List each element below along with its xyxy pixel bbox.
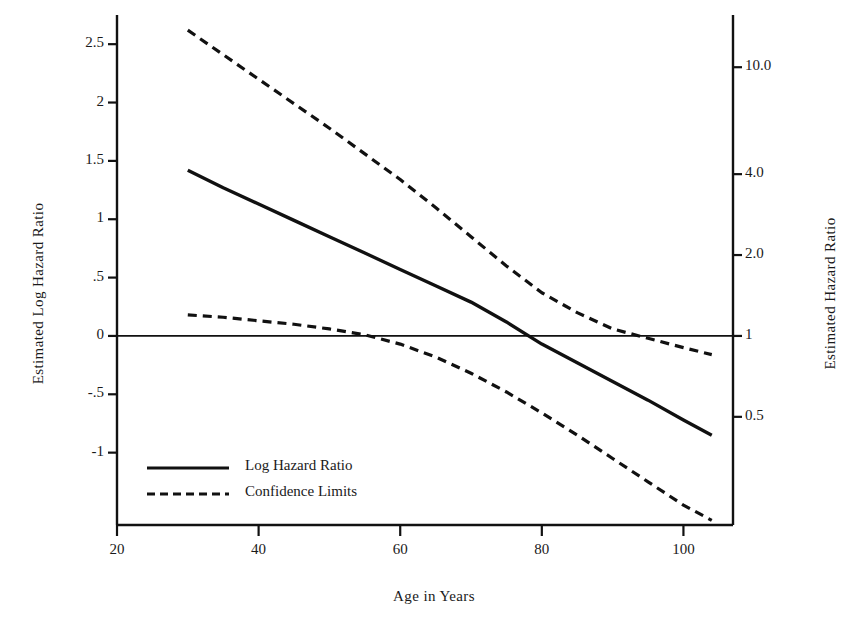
x-tick-label-2: 60 (370, 541, 430, 558)
x-tick-label-0: 20 (87, 541, 147, 558)
y-tick-label-right-4: 0.5 (745, 407, 805, 424)
data-series-group (188, 30, 712, 520)
y-tick-label-left-0: 2.5 (58, 34, 104, 51)
legend-sample-lines (147, 468, 229, 494)
y-tick-label-left-4: .5 (58, 268, 104, 285)
x-tick-label-4: 100 (653, 541, 713, 558)
y-tick-label-left-7: -1 (58, 443, 104, 460)
plot-canvas (0, 0, 868, 629)
x-tick-label-3: 80 (512, 541, 572, 558)
y-tick-label-left-5: 0 (58, 326, 104, 343)
y-tick-label-left-2: 1.5 (58, 151, 104, 168)
x-tick-label-1: 40 (229, 541, 289, 558)
y-tick-label-right-3: 1 (745, 326, 805, 343)
series-line-1 (188, 30, 712, 354)
legend-label-0: Log Hazard Ratio (245, 457, 352, 474)
y-tick-label-left-6: -.5 (58, 384, 104, 401)
chart-figure: Estimated Log Hazard Ratio Estimated Haz… (0, 0, 868, 629)
series-line-0 (188, 170, 712, 435)
legend-label-1: Confidence Limits (245, 483, 357, 500)
axis-frame (117, 15, 733, 525)
y-tick-label-right-2: 2.0 (745, 245, 805, 262)
y-tick-label-right-1: 4.0 (745, 164, 805, 181)
y-tick-label-left-1: 2 (58, 93, 104, 110)
axis-ticks (108, 44, 742, 536)
y-tick-label-right-0: 10.0 (745, 57, 805, 74)
y-tick-label-left-3: 1 (58, 209, 104, 226)
